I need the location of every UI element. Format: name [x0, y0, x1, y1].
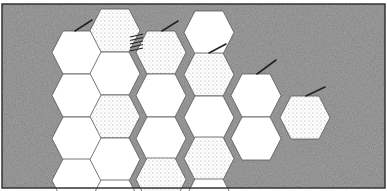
hexagon-cell-dotted: [184, 137, 234, 180]
hexagon-cell-white: [231, 117, 281, 160]
hexagon-cell-white: [90, 52, 140, 95]
hexagon-cell-white: [231, 74, 281, 117]
hexagon-cell-white: [136, 117, 186, 160]
hexagon-cell-dotted: [90, 9, 140, 52]
hexagon-cell-dotted: [136, 31, 186, 74]
hexagon-cell-dotted: [90, 95, 140, 138]
hexagon-cell-white: [90, 138, 140, 181]
hexagon-cell-dotted: [184, 53, 234, 96]
illustration-canvas: [0, 0, 387, 191]
hexagon-cell-white: [184, 11, 234, 54]
hexagon-cell-white: [184, 96, 234, 139]
hexagon-cell-dotted: [280, 96, 330, 139]
hexagon-cell-white: [136, 74, 186, 117]
